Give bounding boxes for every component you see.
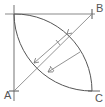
label-c: C [95, 92, 103, 104]
diagonal-ab [14, 14, 92, 91]
label-b: B [96, 2, 103, 14]
dimension-arrow-upper [34, 34, 67, 63]
label-a: A [4, 89, 12, 101]
diagram-canvas: B A C [0, 0, 105, 107]
